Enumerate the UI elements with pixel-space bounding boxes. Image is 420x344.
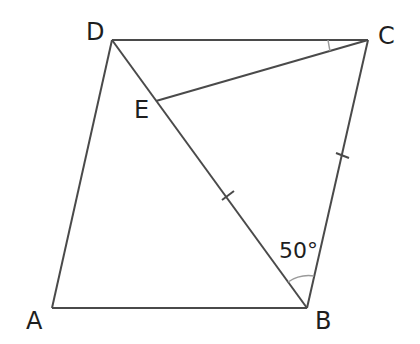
segment-da: [52, 40, 112, 308]
angle-label-b: 50°: [279, 238, 318, 263]
point-label-a: A: [26, 307, 43, 335]
point-label-c: C: [378, 22, 395, 50]
point-label-b: B: [315, 307, 331, 335]
angle-arc-b: [288, 276, 314, 282]
segment-db: [112, 40, 307, 308]
point-label-e: E: [134, 96, 149, 124]
diagram-svg: D C E A B 50°: [0, 0, 420, 344]
point-label-d: D: [86, 18, 104, 46]
angle-arc-c: [328, 40, 330, 51]
geometry-diagram: D C E A B 50°: [0, 0, 420, 344]
segment-ce: [156, 40, 368, 101]
segment-bc: [307, 40, 368, 308]
